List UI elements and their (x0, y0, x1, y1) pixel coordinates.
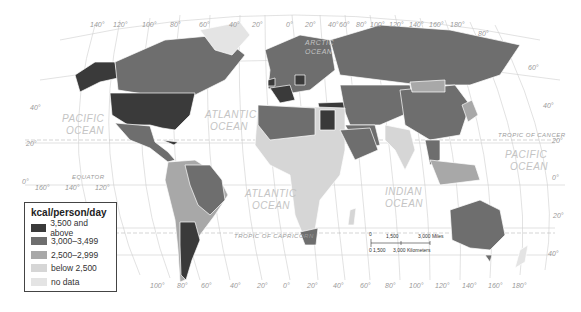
legend-item: 3,500 and above (31, 221, 110, 235)
legend-item: 3,000–3,499 (31, 235, 110, 249)
svg-text:PACIFIC: PACIFIC (62, 113, 104, 124)
svg-text:40°: 40° (230, 282, 241, 289)
north-africa (258, 105, 315, 140)
svg-text:80°: 80° (177, 282, 188, 289)
svg-text:3,000 Kilometers: 3,000 Kilometers (393, 247, 431, 253)
legend-label: below 2,500 (51, 263, 97, 273)
alaska (75, 62, 118, 92)
svg-text:40°: 40° (229, 21, 240, 28)
svg-text:3,000 Miles: 3,000 Miles (418, 233, 444, 239)
scale-bar (371, 239, 430, 247)
svg-text:60°: 60° (199, 21, 210, 28)
svg-text:20°: 20° (551, 137, 563, 144)
legend-item: 2,500–2,999 (31, 248, 110, 262)
legend-label: 3,000–3,499 (51, 236, 98, 246)
svg-text:ARCTIC: ARCTIC (304, 39, 335, 46)
land (75, 22, 528, 282)
svg-text:180°: 180° (450, 21, 465, 28)
svg-text:80°: 80° (356, 21, 367, 28)
legend-label: 2,500–2,999 (51, 250, 98, 260)
svg-text:20°: 20° (25, 140, 37, 147)
mongolia (410, 80, 445, 92)
svg-text:1,500: 1,500 (386, 233, 399, 239)
svg-text:160°: 160° (429, 21, 444, 28)
svg-text:40°: 40° (548, 250, 559, 257)
svg-text:20°: 20° (306, 282, 318, 289)
svg-text:140°: 140° (65, 184, 80, 191)
svg-text:100°: 100° (142, 21, 157, 28)
legend-swatch (31, 251, 47, 259)
legend-swatch (31, 278, 47, 286)
svg-text:40°: 40° (30, 104, 41, 111)
svg-text:140°: 140° (462, 282, 477, 289)
egypt (320, 110, 335, 130)
svg-text:60°: 60° (201, 282, 212, 289)
svg-text:1,500: 1,500 (373, 247, 386, 253)
svg-text:140°: 140° (90, 21, 105, 28)
legend-label: no data (51, 277, 79, 287)
legend-swatch (31, 264, 47, 272)
svg-text:40°: 40° (328, 21, 339, 28)
svg-text:20°: 20° (304, 21, 316, 28)
svg-text:160°: 160° (488, 282, 503, 289)
australia (450, 200, 505, 250)
svg-text:OCEAN: OCEAN (385, 198, 423, 209)
svg-text:80°: 80° (385, 282, 396, 289)
svg-text:40°: 40° (543, 102, 554, 109)
svg-text:ATLANTIC: ATLANTIC (204, 109, 257, 120)
france (270, 85, 295, 103)
svg-text:0°: 0° (552, 174, 559, 181)
svg-text:160°: 160° (35, 184, 50, 191)
svg-text:20°: 20° (251, 21, 263, 28)
svg-text:OCEAN: OCEAN (252, 200, 290, 211)
svg-text:100°: 100° (150, 282, 165, 289)
svg-text:0°: 0° (22, 178, 29, 185)
legend-swatch (31, 224, 46, 232)
legend-label: 3,500 and above (50, 218, 110, 238)
svg-text:40°: 40° (333, 282, 344, 289)
svg-text:0: 0 (369, 247, 372, 253)
svg-text:60°: 60° (528, 64, 539, 71)
svg-text:120°: 120° (435, 282, 450, 289)
svg-text:OCEAN: OCEAN (66, 125, 104, 136)
legend-item: no data (31, 275, 110, 289)
legend-item: below 2,500 (31, 262, 110, 276)
svg-text:100°: 100° (409, 282, 424, 289)
svg-text:60°: 60° (360, 282, 371, 289)
svg-text:0: 0 (369, 231, 372, 237)
svg-text:ATLANTIC: ATLANTIC (244, 188, 297, 199)
legend: kcal/person/day 3,500 and above 3,000–3,… (24, 202, 117, 292)
svg-text:60°: 60° (339, 21, 350, 28)
svg-text:0°: 0° (283, 282, 290, 289)
svg-text:140°: 140° (409, 21, 424, 28)
svg-text:80°: 80° (478, 30, 489, 37)
svg-text:PACIFIC: PACIFIC (505, 149, 547, 160)
svg-text:180°: 180° (512, 282, 527, 289)
legend-swatch (31, 237, 47, 245)
svg-text:20°: 20° (256, 282, 268, 289)
svg-text:80°: 80° (170, 21, 181, 28)
svg-text:120°: 120° (389, 21, 404, 28)
svg-text:120°: 120° (113, 21, 128, 28)
svg-text:TROPIC OF CAPRICORN: TROPIC OF CAPRICORN (234, 233, 314, 239)
svg-text:INDIAN: INDIAN (385, 186, 422, 197)
svg-text:120°: 120° (95, 184, 110, 191)
svg-text:OCEAN: OCEAN (510, 161, 548, 172)
svg-text:100°: 100° (370, 21, 385, 28)
svg-text:OCEAN: OCEAN (305, 48, 333, 55)
legend-title: kcal/person/day (31, 207, 110, 218)
svg-text:0°: 0° (286, 21, 293, 28)
svg-text:EQUATOR: EQUATOR (72, 174, 105, 180)
svg-text:20°: 20° (552, 212, 564, 219)
russia (330, 25, 520, 85)
svg-text:OCEAN: OCEAN (210, 121, 248, 132)
